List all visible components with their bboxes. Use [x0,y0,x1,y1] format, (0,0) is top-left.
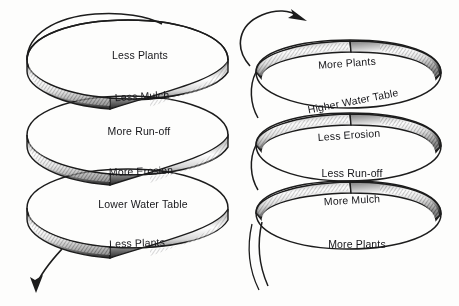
coil-label-right-4: Less Run-off [321,168,382,179]
coil-label-right-6: More Plants [328,239,386,250]
arrow-down-left-icon [30,249,62,293]
coil-label-left-6: Less Plants [109,237,165,249]
spiral-illustration [0,0,459,306]
right-spiral-bottom-tail-2 [249,224,259,290]
coil-label-left-4: More Erosion [109,165,174,178]
right-spiral-bottom-tail [259,222,268,286]
coil-label-left-2: Less Mulch [114,89,169,102]
coil-label-left-5: Lower Water Table [98,199,188,210]
coil-label-right-5: More Mulch [324,193,381,206]
spiral-diagram: Less Plants Less Mulch More Run-off More… [0,0,459,306]
coil-label-left-3: More Run-off [108,126,171,137]
coil-label-left-1: Less Plants [112,50,168,61]
